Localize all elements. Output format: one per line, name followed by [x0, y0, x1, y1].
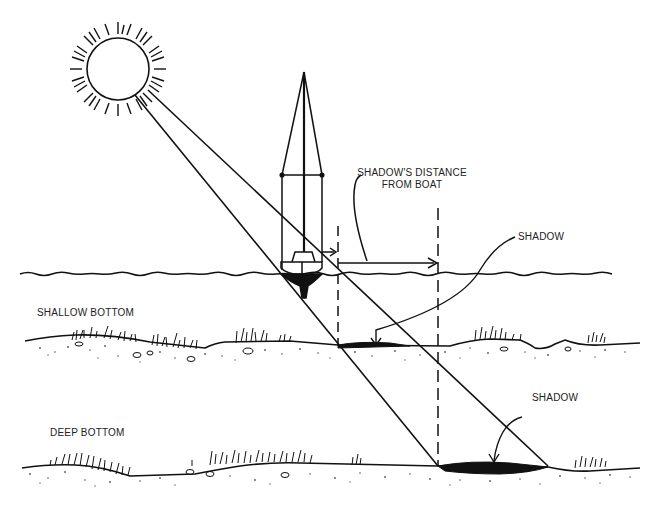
distance-label: SHADOW'S DISTANCE FROM BOAT [356, 167, 468, 191]
distance-label-line2: FROM BOAT [356, 179, 468, 191]
distance-indicator [322, 175, 438, 466]
deep-bottom-label: DEEP BOTTOM [50, 427, 125, 439]
shallow-bottom-label: SHALLOW BOTTOM [37, 307, 134, 319]
sun-icon [70, 22, 166, 116]
sailboat-icon [280, 72, 324, 298]
shallow-bottom [25, 326, 640, 363]
distance-label-line1: SHADOW'S DISTANCE [356, 167, 468, 179]
shadow-pointers [371, 237, 522, 462]
sun-rays [135, 90, 548, 466]
shadow-label-shallow: SHADOW [518, 231, 564, 243]
deep-bottom [22, 450, 640, 487]
shadow-label-deep: SHADOW [532, 392, 578, 404]
